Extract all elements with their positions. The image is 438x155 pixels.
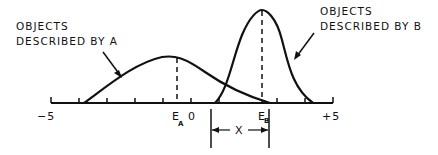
axis-zero-label: 0 <box>188 110 196 123</box>
x-dim-label: X <box>235 124 244 137</box>
distribution-diagram: OBJECTS DESCRIBED BY A OBJECTS DESCRIBED… <box>0 0 438 155</box>
axis-max-label: +5 <box>322 110 340 123</box>
ea-subscript: A <box>178 120 184 128</box>
arrowhead-a-icon <box>114 70 122 78</box>
label-a-line2: DESCRIBED BY A <box>16 35 118 47</box>
x-left-arrow-icon <box>212 127 219 133</box>
x-right-arrow-icon <box>261 127 268 133</box>
arrow-b-icon <box>297 33 314 56</box>
axis-min-label: −5 <box>37 110 55 123</box>
label-b-line1: OBJECTS <box>320 5 373 17</box>
label-b-line2: DESCRIBED BY B <box>320 20 422 32</box>
label-a-line1: OBJECTS <box>16 20 69 32</box>
